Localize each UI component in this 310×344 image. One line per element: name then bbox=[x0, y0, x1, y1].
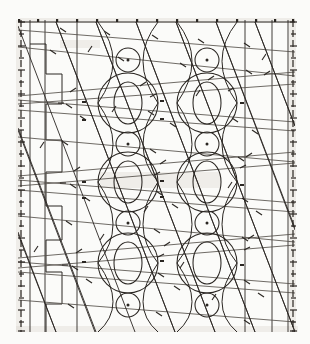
figure-root bbox=[0, 0, 310, 344]
diagram-canvas bbox=[0, 0, 310, 344]
